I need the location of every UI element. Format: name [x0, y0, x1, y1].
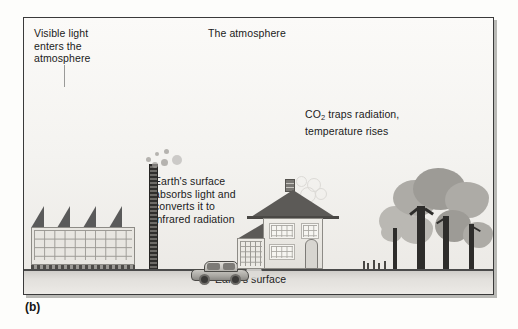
label-co2-prefix: CO	[305, 108, 321, 120]
tree-foliage	[381, 222, 403, 242]
greenhouse-effect-diagram: Visible light enters the atmosphere The …	[23, 17, 494, 295]
factory-sawtooth-roof	[31, 206, 135, 228]
tree-trunk	[393, 228, 397, 269]
house-front-door	[305, 239, 318, 269]
figure-stage: Visible light enters the atmosphere The …	[0, 0, 518, 329]
smokestack	[149, 164, 158, 269]
house-window-icon	[301, 223, 319, 239]
tree-trunk	[469, 224, 474, 269]
roof-tooth-icon	[31, 206, 44, 228]
label-visible-light: Visible light enters the atmosphere	[34, 27, 90, 65]
grass-tuft	[378, 263, 380, 269]
car-wheel-icon	[199, 274, 210, 285]
label-co2-traps-radiation: CO2 traps radiation, temperature rises	[305, 108, 399, 137]
factory	[31, 206, 135, 269]
visible-light-ray-icon	[64, 65, 65, 87]
smoke-puff-icon	[164, 149, 169, 154]
label-earth-absorbs-light: Earth's surface absorbs light and conver…	[154, 175, 236, 225]
car-window-icon	[207, 263, 220, 270]
house-window-icon	[269, 244, 295, 260]
car-wheel-icon	[230, 274, 241, 285]
house-window-icon	[269, 223, 295, 239]
smoke-puff-icon	[161, 159, 168, 166]
garage-roof	[237, 223, 264, 239]
label-atmosphere: The atmosphere	[208, 27, 286, 40]
smoke-ring-icon	[296, 176, 307, 187]
roof-tooth-icon	[57, 206, 70, 228]
garage-door	[237, 238, 265, 269]
tree-foliage	[463, 222, 493, 248]
tree-foliage	[399, 216, 433, 244]
grass-tuft	[384, 261, 386, 269]
house-roof	[251, 190, 335, 217]
roof-tooth-icon	[83, 206, 96, 228]
garage-door-panels	[240, 241, 262, 266]
figure-caption: (b)	[25, 300, 40, 314]
roof-tooth-icon	[109, 206, 122, 228]
tree-trunk	[417, 206, 425, 269]
factory-facade	[31, 227, 135, 265]
tree-trunk	[443, 216, 449, 269]
smoke-puff-icon	[146, 157, 151, 162]
smoke-puff-icon	[172, 155, 182, 165]
car-window-icon	[223, 263, 235, 270]
smoke-puff-icon	[152, 162, 158, 168]
factory-base	[31, 265, 135, 269]
grass-tuft	[367, 263, 369, 269]
tree-group	[379, 166, 494, 269]
grass-tuft	[363, 261, 365, 269]
factory-window-grid	[34, 230, 132, 260]
grass-tuft	[373, 260, 375, 269]
house	[237, 176, 350, 269]
smoke-puff-icon	[155, 152, 159, 156]
